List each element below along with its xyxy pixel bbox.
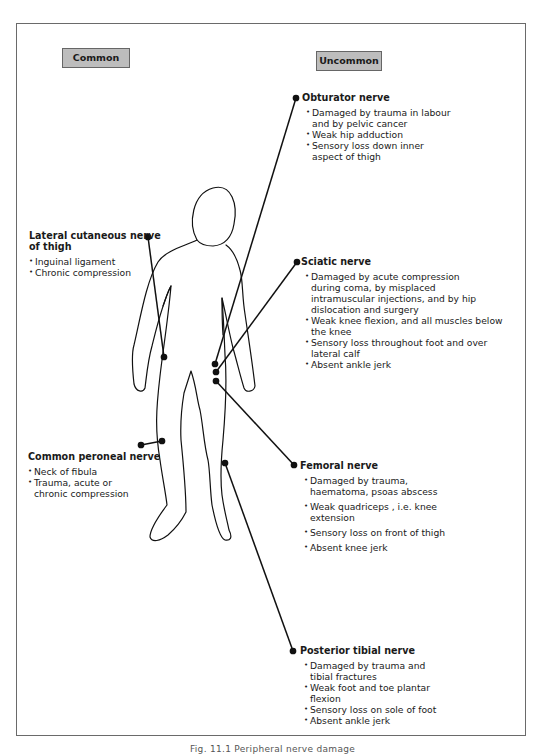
posterior-tibial-title: Posterior tibial nerve — [300, 645, 436, 656]
common-peroneal-nerve-block: Common peroneal nerve Neck of fibula Tra… — [28, 451, 160, 499]
femoral-nerve-title: Femoral nerve — [300, 460, 445, 471]
head-outline — [192, 187, 235, 246]
sciatic-point-3: Sensory loss throughout foot and over la… — [305, 337, 503, 359]
lateral-cutaneous-nerve-block: Lateral cutaneous nerve of thigh Inguina… — [29, 230, 161, 278]
sciatic-point-2: Weak knee flexion, and all muscles below… — [305, 315, 503, 337]
femoral-nerve-block: Femoral nerve Damaged by trauma, haemato… — [300, 460, 445, 557]
obturator-leader — [215, 98, 296, 364]
posterior-tibial-point-1: Damaged by trauma and tibial fractures — [304, 660, 436, 682]
femoral-leader — [216, 381, 294, 465]
posterior-tibial-point-2: Weak foot and toe plantar flexion — [304, 682, 436, 704]
common-peroneal-title: Common peroneal nerve — [28, 451, 160, 462]
sciatic-nerve-block: Sciatic nerve Damaged by acute compressi… — [301, 256, 503, 370]
posterior-tibial-point-4: Absent ankle jerk — [304, 715, 436, 726]
sciatic-leader — [216, 262, 297, 372]
femoral-point-4: Absent knee jerk — [304, 542, 445, 553]
common-peroneal-point-2: Trauma, acute or chronic compression — [28, 477, 160, 499]
lateral-cutaneous-title-2: of thigh — [29, 241, 161, 252]
posterior-tibial-leader — [225, 463, 293, 651]
posterior-tibial-nerve-block: Posterior tibial nerve Damaged by trauma… — [300, 645, 436, 726]
obturator-nerve-block: Obturator nerve Damaged by trauma in lab… — [302, 92, 451, 162]
sciatic-nerve-title: Sciatic nerve — [301, 256, 503, 267]
obturator-point-1: Damaged by trauma in labour and by pelvi… — [306, 107, 451, 129]
femoral-point-1: Damaged by trauma, haematoma, psoas absc… — [304, 475, 445, 497]
obturator-point-2: Weak hip adduction — [306, 129, 451, 140]
posterior-tibial-point-3: Sensory loss on sole of foot — [304, 704, 436, 715]
common-peroneal-point-1: Neck of fibula — [28, 466, 160, 477]
sciatic-point-1: Damaged by acute compression during coma… — [305, 271, 503, 315]
lateral-cutaneous-title-1: Lateral cutaneous nerve — [29, 230, 161, 241]
femoral-point-3: Sensory loss on front of thigh — [304, 527, 445, 538]
obturator-nerve-title: Obturator nerve — [302, 92, 451, 103]
figure-caption: Fig. 11.1 Peripheral nerve damage — [190, 744, 355, 754]
uncommon-category-label: Uncommon — [316, 51, 382, 71]
obturator-point-3: Sensory loss down inner aspect of thigh — [306, 140, 451, 162]
lateral-cutaneous-point-1: Inguinal ligament — [29, 256, 161, 267]
common-category-label: Common — [62, 48, 130, 68]
sciatic-point-4: Absent ankle jerk — [305, 359, 503, 370]
femoral-point-2: Weak quadriceps , i.e. knee extension — [304, 501, 445, 523]
lateral-cutaneous-point-2: Chronic compression — [29, 267, 161, 278]
